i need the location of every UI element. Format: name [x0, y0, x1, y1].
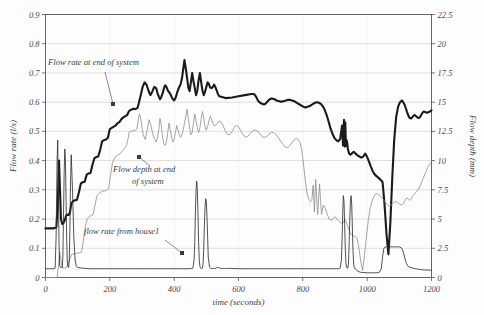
- y2-axis-tick-label: 12.5: [438, 126, 453, 136]
- annotation-arrow-head: [111, 102, 115, 106]
- flow-depth-end-label-line2: of system: [132, 176, 164, 186]
- annotation-leader-line: [105, 72, 113, 104]
- y2-axis-tick-label: 2.5: [438, 243, 449, 253]
- y2-axis-tick-label: 0: [438, 273, 443, 283]
- y2-axis-tick-label: 17.5: [438, 68, 453, 78]
- annotation-arrow-head: [180, 251, 184, 255]
- x-axis-tick-label: 0: [43, 284, 48, 294]
- y2-axis-tick-label: 22.5: [438, 10, 453, 20]
- flow-rate-depth-chart: 00.10.20.30.40.50.60.70.80.902.557.51012…: [0, 0, 484, 315]
- y-axis-tick-label: 0: [35, 273, 40, 283]
- y2-axis-tick-label: 10: [438, 156, 447, 166]
- y2-axis-tick-label: 15: [438, 97, 447, 107]
- annotation-leader-line: [165, 240, 182, 253]
- y2-axis-tick-label: 7.5: [438, 185, 449, 195]
- y-axis-tick-label: 0.5: [29, 126, 40, 136]
- y-axis-tick-label: 0.2: [29, 214, 40, 224]
- y-axis-tick-label: 0.3: [29, 185, 40, 195]
- y-axis-tick-label: 0.9: [29, 10, 40, 20]
- annotation-arrow-head: [137, 155, 141, 159]
- x-axis-tick-label: 200: [103, 284, 117, 294]
- chart-figure: 00.10.20.30.40.50.60.70.80.902.557.51012…: [0, 0, 484, 315]
- x-axis-tick-label: 1000: [359, 284, 377, 294]
- x-axis-title: time (seconds): [212, 297, 264, 307]
- y2-axis-title: Flow depth (mm): [468, 114, 478, 177]
- y-axis-tick-label: 0.8: [29, 39, 40, 49]
- x-axis-tick-label: 600: [232, 284, 246, 294]
- y-axis-title: Flow rate (l/s): [8, 120, 18, 173]
- flow-rate-house-label: flow rate from house1: [84, 226, 159, 236]
- y2-axis-tick-label: 20: [438, 39, 447, 49]
- x-axis-tick-label: 800: [296, 284, 310, 294]
- x-axis-tick-label: 400: [168, 284, 182, 294]
- x-axis-tick-label: 1200: [423, 284, 441, 294]
- y-axis-tick-label: 0.1: [29, 243, 40, 253]
- flow-rate-end-label: Flow rate at end of system: [47, 57, 139, 67]
- y-axis-tick-label: 0.7: [29, 68, 40, 78]
- y-axis-tick-label: 0.4: [29, 156, 40, 166]
- flow-depth-end-label-line1: Flow depth at end: [112, 164, 176, 174]
- y2-axis-tick-label: 5: [438, 214, 442, 224]
- y-axis-tick-label: 0.6: [29, 97, 40, 107]
